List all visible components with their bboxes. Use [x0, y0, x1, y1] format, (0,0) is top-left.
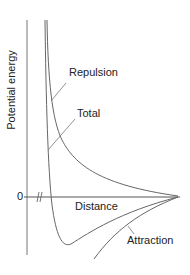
- repulsion-curve: [47, 20, 178, 196]
- repulsion-label: Repulsion: [69, 67, 118, 78]
- attraction-leader-line: [128, 226, 134, 234]
- repulsion-leader-line: [51, 83, 66, 101]
- total-label: Total: [77, 108, 100, 119]
- total-leader-line: [48, 119, 75, 150]
- attraction-label: Attraction: [127, 235, 173, 246]
- zero-tick-label: 0: [17, 191, 23, 202]
- y-axis-label: Potential energy: [5, 45, 17, 135]
- x-axis-label: Distance: [75, 201, 118, 212]
